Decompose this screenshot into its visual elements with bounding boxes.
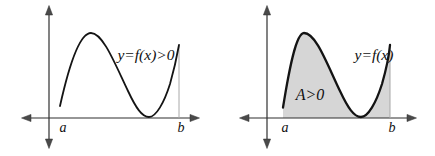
math-figure: y=f(x)>0 a b y=f(x) A>0 a b: [0, 0, 435, 156]
left-b-tick-label: b: [178, 120, 185, 135]
right-y-axis-up-arrow-icon: [263, 6, 270, 16]
right-a-tick-label: a: [282, 120, 289, 135]
left-y-axis-up-arrow-icon: [45, 6, 52, 16]
right-x-axis-left-arrow-icon: [240, 114, 250, 121]
right-x-axis-right-arrow-icon: [407, 114, 417, 121]
left-a-tick-label: a: [60, 120, 67, 135]
left-curve-label: y=f(x)>0: [115, 46, 174, 64]
area-label: A>0: [295, 86, 325, 103]
left-x-axis-right-arrow-icon: [190, 114, 200, 121]
right-b-tick-label: b: [389, 120, 396, 135]
figure-canvas: y=f(x)>0 a b y=f(x) A>0 a b: [0, 0, 435, 156]
right-plot: y=f(x) A>0 a b: [240, 6, 417, 149]
right-y-axis-down-arrow-icon: [263, 139, 270, 149]
left-plot: y=f(x)>0 a b: [22, 6, 200, 149]
left-x-axis-left-arrow-icon: [22, 114, 32, 121]
right-curve-label: y=f(x): [353, 46, 394, 64]
left-y-axis-down-arrow-icon: [45, 139, 52, 149]
